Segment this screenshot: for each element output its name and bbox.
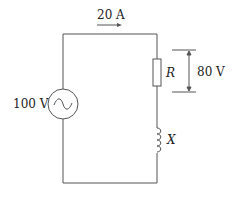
resistor-label: R	[165, 66, 175, 80]
inductor-label: X	[166, 133, 176, 147]
circuit-diagram: 20 A 100 V R 80 V X	[0, 0, 235, 197]
source-voltage-label: 100 V	[13, 97, 49, 111]
current-label: 20 A	[97, 8, 125, 22]
resistor-icon	[153, 59, 161, 86]
bottom-wire	[63, 119, 157, 183]
voltage-arrow-icon	[172, 50, 196, 92]
top-wire	[63, 34, 157, 89]
resistor-voltage-label: 80 V	[197, 65, 225, 79]
current-arrow-icon	[97, 23, 122, 27]
inductor-icon	[157, 128, 161, 152]
ac-source-icon	[48, 89, 78, 119]
